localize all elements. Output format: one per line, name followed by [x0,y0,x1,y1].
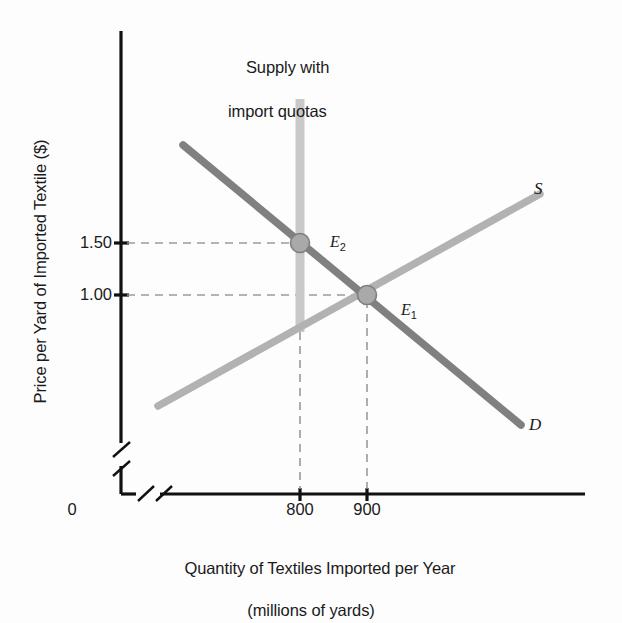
demand-curve-label: D [529,415,541,435]
equilibrium-label-e2-letter: E [330,233,340,250]
x-axis-break-mark-left [138,486,154,501]
x-axis-title: Quantity of Textiles Imported per Year (… [0,537,622,623]
y-tick-label-150: 1.50 [42,233,112,252]
equilibrium-point-e1 [358,286,377,305]
x-tick-label-900: 900 [332,500,402,519]
x-axis-title-line2: (millions of yards) [0,600,622,621]
equilibrium-label-e1-letter: E [401,301,411,318]
equilibrium-label-e1: E1 [385,283,417,339]
demand-curve [183,145,521,425]
x-axis-title-line1: Quantity of Textiles Imported per Year [184,559,455,577]
quota-annotation-line1: Supply with [246,58,329,76]
supply-curve [158,194,540,406]
origin-label: 0 [52,500,92,519]
equilibrium-label-e1-subscript: 1 [411,309,417,321]
quota-annotation: Supply with import quotas [228,34,329,166]
x-tick-label-800: 800 [265,500,335,519]
equilibrium-label-e2-subscript: 2 [340,241,346,253]
y-axis-title: Price per Yard of Imported Textile ($) [31,92,50,452]
equilibrium-label-e2: E2 [314,215,346,271]
y-axis-break-mark-upper [113,442,130,457]
supply-curve-label: S [534,179,543,199]
quota-annotation-line2: import quotas [228,100,329,122]
equilibrium-point-e2 [291,234,310,253]
y-tick-label-100: 1.00 [42,285,112,304]
